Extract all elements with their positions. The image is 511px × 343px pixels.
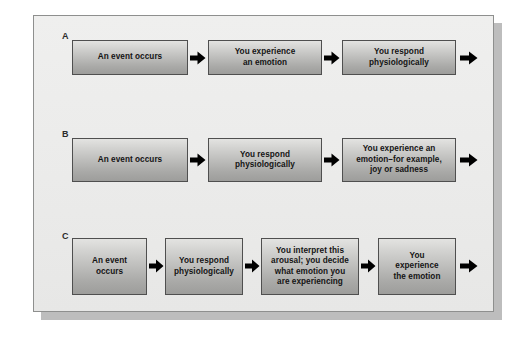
node-c1-text: An event occurs	[92, 256, 127, 277]
node-b3-text: You experience an emotion–for example, j…	[356, 144, 442, 176]
node-a3-text: You respond physiologically	[369, 47, 429, 68]
row-label-a: A	[62, 31, 69, 41]
node-c1: An event occurs	[72, 238, 147, 295]
node-a2-text: You experience an emotion	[235, 47, 296, 68]
node-c2-text: You respond physiologically	[174, 256, 234, 277]
node-a1-text: An event occurs	[98, 52, 162, 63]
node-c3-text: You interpret this arousal; you decide w…	[271, 246, 349, 288]
node-a3: You respond physiologically	[342, 40, 456, 75]
node-c3: You interpret this arousal; you decide w…	[261, 238, 359, 295]
node-b3: You experience an emotion–for example, j…	[342, 138, 456, 182]
node-b1: An event occurs	[72, 138, 188, 182]
node-a2: You experience an emotion	[208, 40, 322, 75]
node-b2-text: You respond physiologically	[235, 150, 295, 171]
node-c4-text: You experience the emotion	[394, 251, 441, 283]
arrow-a2-to-a3	[324, 51, 340, 65]
node-c4: You experience the emotion	[378, 238, 456, 295]
node-b2: You respond physiologically	[208, 138, 322, 182]
arrow-a3-outgoing	[460, 51, 478, 65]
arrow-c3-to-c4	[361, 259, 376, 273]
arrow-a1-to-a2	[190, 51, 206, 65]
arrow-c2-to-c3	[245, 259, 260, 273]
arrow-b2-to-b3	[324, 153, 340, 167]
node-b1-text: An event occurs	[98, 155, 162, 166]
node-a1: An event occurs	[72, 40, 188, 75]
row-label-c: C	[62, 231, 69, 241]
arrow-b3-outgoing	[460, 153, 478, 167]
row-label-b: B	[62, 129, 69, 139]
arrow-c1-to-c2	[149, 259, 164, 273]
node-c2: You respond physiologically	[165, 238, 243, 295]
arrow-b1-to-b2	[190, 153, 206, 167]
arrow-c4-outgoing	[460, 259, 478, 273]
